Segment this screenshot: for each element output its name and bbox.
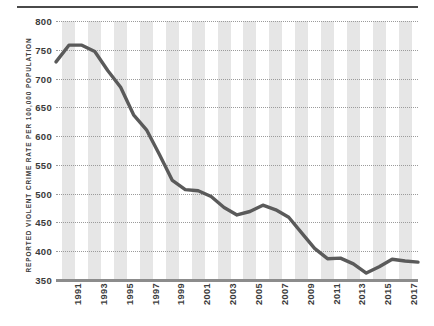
y-axis-tick-label: 700 [22, 73, 52, 84]
y-axis-tick-label: 550 [22, 159, 52, 170]
chart-figure: REPORTED VIOLENT CRIME RATE PER 100,000 … [0, 0, 434, 326]
x-axis-tick-label: 2011 [332, 283, 342, 305]
y-axis-tick-label: 500 [22, 188, 52, 199]
x-axis-line [56, 279, 418, 282]
y-axis-tick-label: 800 [22, 16, 52, 27]
violent-crime-rate-line [56, 45, 418, 273]
top-divider-rule [17, 6, 418, 8]
y-axis-tick-label: 450 [22, 217, 52, 228]
plot-area [56, 21, 418, 280]
y-axis-tick-label: 650 [22, 102, 52, 113]
y-axis-tick-labels: 800750700650600550500450400350 [18, 21, 52, 280]
line-series-svg [56, 21, 418, 280]
x-axis-tick-label: 1997 [151, 283, 161, 305]
x-axis-tick-label: 2005 [254, 283, 264, 305]
y-axis-tick-label: 350 [22, 275, 52, 286]
x-axis-tick-label: 2007 [280, 283, 290, 305]
x-axis-tick-label: 2013 [357, 283, 367, 305]
y-axis-tick-label: 400 [22, 246, 52, 257]
x-axis-tick-label: 1993 [99, 283, 109, 305]
x-axis-tick-label: 2001 [202, 283, 212, 305]
x-axis-tick-label: 1991 [73, 283, 83, 305]
x-axis-tick-label: 2015 [383, 283, 393, 305]
x-axis-tick-label: 2003 [228, 283, 238, 305]
x-axis-tick-labels: 1991199319951997199920012003200520072009… [56, 283, 418, 325]
x-axis-tick-label: 2017 [409, 283, 419, 305]
x-axis-tick-label: 1995 [125, 283, 135, 305]
y-axis-tick-label: 750 [22, 44, 52, 55]
y-axis-tick-label: 600 [22, 131, 52, 142]
x-axis-tick-label: 1999 [176, 283, 186, 305]
x-axis-tick-label: 2009 [306, 283, 316, 305]
